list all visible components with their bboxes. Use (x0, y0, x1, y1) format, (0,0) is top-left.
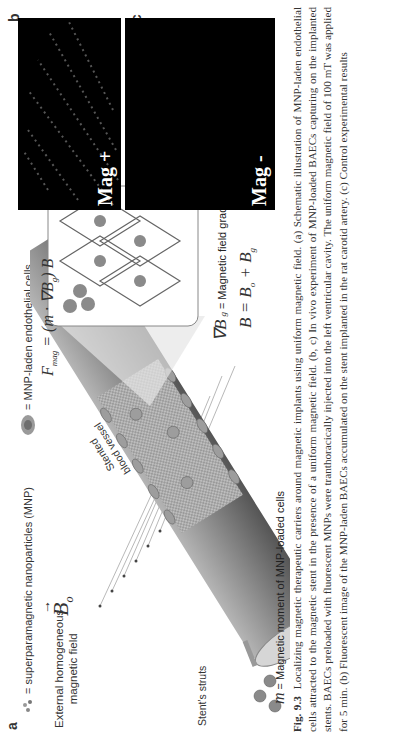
panel-b-image: Mag + (18, 18, 121, 210)
figure-number: Fig. 9.3 (291, 696, 303, 732)
gradient-symbol: ∇B (210, 320, 231, 341)
force-lhs-sub: mag (49, 351, 59, 367)
mag-minus-label: Mag - (248, 155, 271, 206)
force-rhs-end: ) B (39, 259, 56, 278)
total-field-mid: + B (236, 252, 255, 282)
gradient-sub: g (218, 312, 228, 317)
force-lhs: F (39, 366, 56, 376)
mag-plus-label: Mag + (94, 151, 117, 206)
total-field-sub2: g (247, 248, 257, 253)
caption-text: Localizing magnetic therapeutic carriers… (291, 7, 349, 732)
figure-caption: Fig. 9.3 Localizing magnetic therapeutic… (290, 7, 351, 732)
panel-c-image: Mag - (125, 18, 275, 210)
gradient-legend: ∇Bg = Magnetic field gradient (210, 189, 231, 341)
moment-legend: m = Magnetic moment of MNP-loaded cells (270, 491, 288, 704)
struts-label: Stent's struts (196, 666, 208, 726)
total-field-equation: B = Bo + Bg (236, 248, 257, 328)
moment-label: = Magnetic moment of MNP-loaded cells (274, 491, 286, 689)
rotated-page: a = superparamagnetic nanoparticles (MNP… (0, 0, 393, 736)
panel-a-label: a (4, 722, 20, 730)
force-rhs-sub: g (49, 278, 59, 283)
total-field-lhs: B = B (236, 287, 255, 328)
total-field-sub1: o (247, 283, 257, 288)
moment-symbol: m (270, 692, 288, 704)
force-equation: Fmag = (m · ∇Bg) B (38, 259, 59, 376)
force-rhs: = (m · ∇B (39, 282, 56, 346)
